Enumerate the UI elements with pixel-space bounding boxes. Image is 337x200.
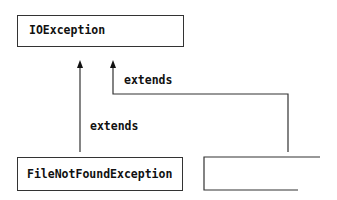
ioexception-class-box: IOException (17, 15, 184, 47)
arrowhead-icon (77, 60, 83, 68)
filenotfoundexception-class-box: FileNotFoundException (17, 157, 183, 191)
class-name: IOException (29, 23, 105, 37)
class-name: FileNotFoundException (27, 167, 172, 181)
unnamed-class-box (204, 157, 320, 190)
arrowhead-icon (110, 60, 116, 68)
class-hierarchy-diagram: IOException FileNotFoundException extend… (0, 0, 337, 200)
extends-label-1: extends (90, 119, 138, 133)
extends-label-2: extends (124, 73, 172, 87)
